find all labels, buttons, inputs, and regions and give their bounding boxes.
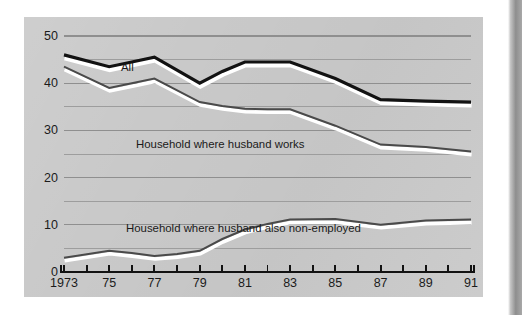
- x-tick-label-85: 85: [328, 277, 342, 290]
- x-tick-label-75: 75: [102, 277, 116, 290]
- x-axis-tick-labels: 1973757779818385878991: [24, 277, 483, 291]
- x-tick-label-87: 87: [374, 277, 388, 290]
- y-tick-label-50: 50: [44, 30, 58, 43]
- y-axis-tick-labels: 50403020100: [24, 17, 58, 297]
- x-tick-label-91: 91: [464, 277, 478, 290]
- x-tick-label-1973: 1973: [50, 277, 78, 290]
- series-label-husband-works: Household where husband works: [136, 139, 304, 150]
- x-tick-label-77: 77: [147, 277, 161, 290]
- chart-panel: 50403020100 1973757779818385878991 All H…: [24, 17, 483, 297]
- series-label-all: All: [121, 62, 134, 73]
- x-tick-label-83: 83: [283, 277, 297, 290]
- series-label-husband-non-employed: Household where husband also non-employe…: [126, 223, 361, 234]
- x-tick-label-79: 79: [193, 277, 207, 290]
- chart-page: 50403020100 1973757779818385878991 All H…: [0, 0, 522, 315]
- y-tick-label-10: 10: [44, 219, 58, 232]
- x-tick-label-81: 81: [238, 277, 252, 290]
- y-tick-label-30: 30: [44, 124, 58, 137]
- line-chart-plot: [24, 17, 483, 297]
- x-tick-label-89: 89: [419, 277, 433, 290]
- y-tick-label-20: 20: [44, 171, 58, 184]
- y-tick-label-40: 40: [44, 77, 58, 90]
- page-edge-shadow: [508, 0, 522, 315]
